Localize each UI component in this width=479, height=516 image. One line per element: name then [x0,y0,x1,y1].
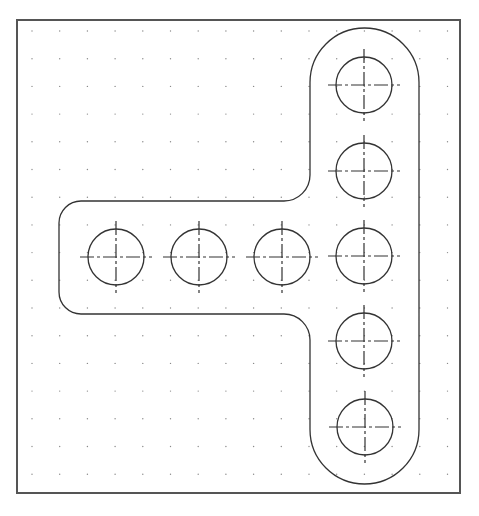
grid-dot [447,335,448,336]
grid-dot [170,197,171,198]
grid-dot [59,141,60,142]
grid-dot [31,30,32,31]
grid-dot [447,390,448,391]
grid-dot [225,363,226,364]
grid-dot [336,141,337,142]
grid-dot [447,280,448,281]
grid-dot [87,363,88,364]
hole-h1 [328,49,400,121]
grid-dot [198,474,199,475]
grid-dot [391,30,392,31]
grid-dot [31,58,32,59]
grid-dot [336,418,337,419]
grid-dot [253,307,254,308]
grid-dot [447,58,448,59]
grid-dot [170,335,171,336]
grid-dot [364,474,365,475]
grid-dot [87,197,88,198]
grid-dot [253,363,254,364]
grid-dot [142,86,143,87]
grid-dot [87,113,88,114]
grid-dot [114,390,115,391]
grid-dot [198,58,199,59]
grid-dot [253,58,254,59]
grid-dot [142,280,143,281]
grid-dot [447,252,448,253]
grid-dot [225,335,226,336]
grid-dot [336,390,337,391]
grid-dot [281,418,282,419]
grid-dot [281,307,282,308]
grid-dot [281,58,282,59]
grid-dot [253,30,254,31]
grid-dot [225,307,226,308]
grid-dot [336,113,337,114]
grid-dot [198,113,199,114]
grid-dot [142,58,143,59]
hole-h3 [80,221,152,293]
grid-dot [253,474,254,475]
grid-dot [447,113,448,114]
grid-dot [281,446,282,447]
grid-dot [308,446,309,447]
grid-dot [225,86,226,87]
grid-dot [59,446,60,447]
grid-dot [253,197,254,198]
grid-dot [114,446,115,447]
grid-dot [87,141,88,142]
grid-dot [114,335,115,336]
grid-dot [253,335,254,336]
grid-dot [391,224,392,225]
grid-dot [253,113,254,114]
grid-dot [31,280,32,281]
grid-dot [225,169,226,170]
grid-dot [142,141,143,142]
grid-dot [447,446,448,447]
grid-dot [87,390,88,391]
grid-dot [142,335,143,336]
grid-dot [198,446,199,447]
grid-dot [59,86,60,87]
grid-dot [225,280,226,281]
grid-dot [336,30,337,31]
grid-dot [198,335,199,336]
grid-dot [170,169,171,170]
grid-dot [31,86,32,87]
grid-dot [142,113,143,114]
grid-dot [87,224,88,225]
grid-dot [336,197,337,198]
grid-dot [419,474,420,475]
grid-dot [114,58,115,59]
grid-dot [114,474,115,475]
grid-dot [364,197,365,198]
grid-dot [31,474,32,475]
grid-dot [447,141,448,142]
grid-dot [59,474,60,475]
grid-dot [31,446,32,447]
grid-dot [114,418,115,419]
bottom-caption-clipped [190,509,290,516]
grid-dot [308,307,309,308]
grid-dot [419,58,420,59]
grid-dot [198,30,199,31]
grid-dot [281,141,282,142]
grid-dot [281,86,282,87]
grid-dot [59,30,60,31]
grid-dot [281,474,282,475]
grid-dot [281,169,282,170]
hole-h8 [329,391,401,463]
grid-dot [225,224,226,225]
grid-dot [253,418,254,419]
grid-dot [447,418,448,419]
grid-dot [198,197,199,198]
grid-dot [336,280,337,281]
grid-dot [447,363,448,364]
grid-dot [253,141,254,142]
grid-dot [225,418,226,419]
grid-dot [308,280,309,281]
holes-group [80,49,401,463]
grid-dot [87,30,88,31]
grid-dot [87,446,88,447]
grid-dot [170,474,171,475]
grid-dot [447,197,448,198]
